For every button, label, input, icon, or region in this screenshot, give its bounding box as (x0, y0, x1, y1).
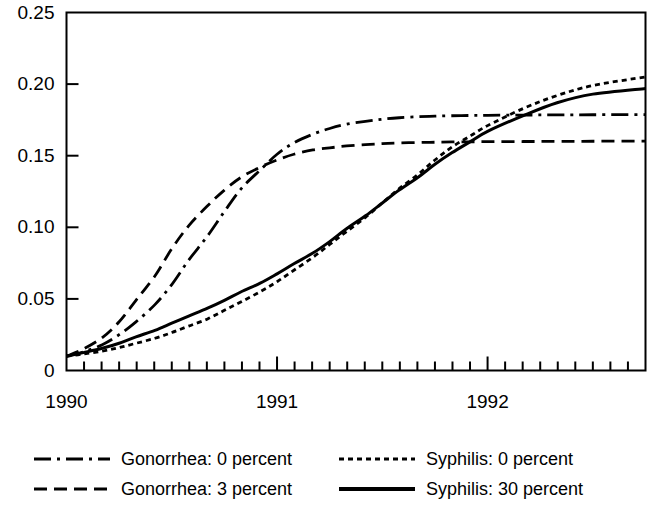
data-series-group (67, 77, 646, 356)
legend-line-swatch (34, 452, 110, 466)
x-tick-label: 1991 (237, 392, 317, 411)
legend-item-label: Syphilis: 30 percent (426, 480, 583, 498)
legend-item-label: Syphilis: 0 percent (426, 450, 573, 468)
series-line-2 (67, 77, 646, 356)
y-tick-label: 0.10 (0, 217, 55, 236)
legend-line-swatch (339, 452, 415, 466)
legend-item: Gonorrhea: 0 percent (34, 446, 292, 472)
legend-item-label: Gonorrhea: 3 percent (121, 480, 292, 498)
series-line-0 (67, 115, 646, 357)
legend-item: Gonorrhea: 3 percent (34, 476, 292, 502)
legend-line-swatch (34, 482, 110, 496)
chart-legend: Gonorrhea: 0 percentSyphilis: 0 percentG… (34, 446, 634, 504)
x-axis-ticks (84, 357, 628, 371)
series-line-3 (67, 88, 646, 356)
plot-canvas (0, 0, 654, 509)
y-tick-label: 0.25 (0, 3, 55, 22)
axis-frame (67, 13, 646, 371)
legend-item-label: Gonorrhea: 0 percent (121, 450, 292, 468)
legend-item: Syphilis: 0 percent (339, 446, 573, 472)
legend-line-swatch (339, 482, 415, 496)
y-tick-label: 0.20 (0, 74, 55, 93)
x-tick-label: 1992 (448, 392, 528, 411)
y-tick-label: 0.15 (0, 146, 55, 165)
y-tick-label: 0.05 (0, 289, 55, 308)
legend-item: Syphilis: 30 percent (339, 476, 583, 502)
x-tick-label: 1990 (27, 392, 107, 411)
y-axis-ticks (67, 84, 79, 299)
series-line-1 (67, 141, 646, 356)
chart-figure: 00.050.100.150.200.25 199019911992 Gonor… (0, 0, 654, 509)
y-tick-label: 0 (0, 361, 55, 380)
